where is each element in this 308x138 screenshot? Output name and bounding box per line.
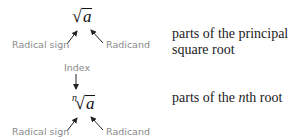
desc-prefix: parts of the	[172, 90, 238, 105]
arrows-layer	[0, 0, 308, 138]
label-index: Index	[64, 62, 90, 73]
square-root-description: parts of the principal square root	[172, 26, 306, 58]
desc-suffix: th root	[245, 90, 282, 105]
nth-root-description: parts of the nth root	[172, 90, 282, 106]
label-radical-sign: Radical sign	[12, 126, 69, 137]
label-radicand: Radicand	[106, 39, 150, 50]
label-radical-sign: Radical sign	[12, 39, 69, 50]
label-radicand: Radicand	[106, 126, 150, 137]
radical-symbol: √	[72, 6, 82, 27]
radicand-variable: a	[85, 95, 96, 112]
nth-root-expression: n √a	[72, 93, 95, 114]
arrow-radicand-1	[91, 30, 103, 43]
index-variable: n	[72, 92, 77, 103]
radicand-variable: a	[82, 8, 93, 25]
arrow-radicand-2	[91, 117, 103, 130]
square-root-expression: √a	[72, 6, 92, 27]
